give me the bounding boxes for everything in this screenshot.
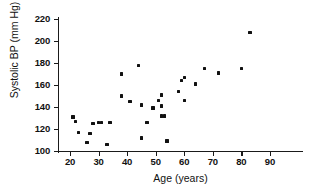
data-point	[160, 104, 163, 107]
data-point	[248, 31, 251, 34]
data-point	[71, 115, 74, 118]
y-tick-label: 140	[24, 102, 50, 112]
y-tick	[54, 129, 58, 130]
y-tick	[54, 19, 58, 20]
data-point	[183, 76, 186, 79]
data-point	[177, 90, 180, 93]
x-tick-label: 60	[171, 157, 197, 167]
data-point	[183, 99, 186, 102]
y-axis-line	[58, 17, 59, 153]
y-tick-label: 220	[24, 14, 50, 24]
x-tick-label: 30	[86, 157, 112, 167]
x-tick-label: 20	[57, 157, 83, 167]
scatter-chart: 100120140160180200220 2030405060708090 A…	[0, 0, 330, 196]
data-point	[77, 131, 80, 134]
x-tick-label: 40	[114, 157, 140, 167]
data-point	[151, 106, 154, 109]
data-point	[240, 67, 243, 70]
data-point	[120, 94, 123, 97]
y-tick-label: 200	[24, 36, 50, 46]
y-tick-label: 120	[24, 124, 50, 134]
data-point	[88, 132, 91, 135]
data-point	[163, 114, 166, 117]
y-tick	[54, 151, 58, 152]
x-tick-label: 80	[228, 157, 254, 167]
x-tick-label: 50	[143, 157, 169, 167]
data-point	[145, 121, 148, 124]
y-tick	[54, 85, 58, 86]
y-tick-label: 100	[24, 146, 50, 156]
x-tick-label: 90	[257, 157, 283, 167]
y-tick	[54, 107, 58, 108]
data-point	[140, 136, 143, 139]
data-point	[140, 103, 143, 106]
x-tick-label: 70	[200, 157, 226, 167]
data-point	[91, 122, 94, 125]
data-point	[203, 67, 206, 70]
data-point	[217, 71, 220, 74]
data-point	[194, 82, 197, 85]
data-point	[100, 121, 103, 124]
data-point	[160, 93, 163, 96]
data-point	[105, 143, 108, 146]
y-tick	[54, 63, 58, 64]
x-axis-line	[58, 151, 303, 152]
data-point	[85, 141, 88, 144]
y-axis-label: Systolic BP (mm Hg)	[8, 0, 20, 114]
data-point	[108, 121, 111, 124]
y-tick-label: 180	[24, 58, 50, 68]
data-point	[165, 139, 168, 142]
x-axis-label: Age (years)	[58, 172, 303, 184]
data-point	[128, 100, 131, 103]
data-point	[74, 120, 77, 123]
data-point	[137, 64, 140, 67]
y-tick-label: 160	[24, 80, 50, 90]
y-tick	[54, 41, 58, 42]
data-point	[180, 79, 183, 82]
data-point	[120, 72, 123, 75]
data-point	[157, 99, 160, 102]
